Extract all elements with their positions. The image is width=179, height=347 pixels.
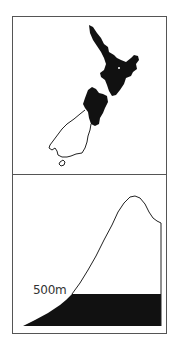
mountain-profile bbox=[23, 196, 161, 326]
below-500m-shaded-area bbox=[23, 294, 161, 326]
south-island-north-shaded bbox=[83, 87, 108, 126]
stewart-island bbox=[59, 160, 65, 166]
elevation-label: 500m bbox=[33, 283, 66, 297]
figure-graphics bbox=[0, 0, 179, 347]
south-island-outline bbox=[49, 110, 91, 157]
new-zealand-map bbox=[49, 25, 139, 166]
north-island-shaded bbox=[89, 25, 139, 96]
